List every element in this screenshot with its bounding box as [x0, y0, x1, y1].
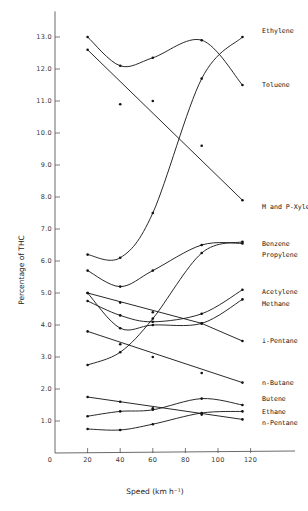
data-point	[86, 292, 89, 295]
series-ethylene	[86, 36, 243, 261]
data-point	[152, 324, 155, 327]
data-point	[152, 57, 155, 60]
x-tick-label: 80	[181, 456, 190, 464]
data-point	[86, 396, 89, 399]
x-axis: 020406080100120	[48, 448, 295, 464]
data-point	[200, 244, 203, 247]
data-point	[241, 298, 244, 301]
x-tick-label: 120	[244, 456, 257, 464]
data-point	[86, 364, 89, 367]
chart: 1.02.03.04.05.06.07.08.09.010.011.012.01…	[0, 0, 308, 511]
data-point	[86, 300, 89, 303]
data-point	[200, 397, 203, 400]
data-point	[152, 356, 155, 359]
data-point	[119, 327, 122, 330]
series-label: Acetylene	[262, 288, 298, 296]
x-tick-label: 40	[116, 456, 125, 464]
data-point	[86, 253, 89, 256]
y-axis: 1.02.03.04.05.06.07.08.09.010.011.012.01…	[36, 11, 60, 453]
series-toluene	[86, 36, 243, 87]
data-point	[86, 415, 89, 418]
data-point	[119, 314, 122, 317]
data-point	[152, 100, 155, 103]
data-point	[119, 65, 122, 68]
y-tick-label: 13.0	[36, 33, 52, 41]
series-n-butane	[86, 330, 243, 384]
x-axis-line	[55, 451, 295, 453]
y-tick-label: 9.0	[41, 161, 52, 169]
series-acetylene	[86, 289, 243, 324]
series-label: n-Butane	[262, 379, 294, 387]
data-point	[241, 404, 244, 407]
y-axis-title: Percentage of THC	[17, 235, 26, 305]
series-label: Ethane	[262, 408, 286, 416]
data-point	[119, 301, 122, 304]
data-point	[152, 407, 155, 410]
data-point	[119, 285, 122, 288]
data-point	[86, 49, 89, 52]
data-point	[119, 429, 122, 432]
data-point	[241, 84, 244, 87]
data-point	[152, 423, 155, 426]
series-label: Toluene	[262, 81, 290, 89]
data-point	[152, 212, 155, 215]
data-point	[119, 351, 122, 354]
x-tick-label: 0	[48, 456, 52, 464]
x-tick-label: 60	[148, 456, 157, 464]
data-point	[200, 145, 203, 148]
data-point	[119, 410, 122, 413]
data-point	[241, 289, 244, 292]
y-tick-label: 1.0	[41, 417, 52, 425]
series-label: i-Pentane	[262, 337, 298, 345]
data-point	[241, 381, 244, 384]
series-label: Benzene	[262, 240, 290, 248]
data-point	[119, 257, 122, 260]
y-tick-label: 2.0	[41, 385, 52, 393]
data-point	[152, 311, 155, 314]
series-m-and-p-xylene	[86, 49, 243, 202]
x-tick-label: 20	[83, 456, 92, 464]
data-point	[200, 77, 203, 80]
y-tick-label: 8.0	[41, 193, 52, 201]
data-point	[241, 199, 244, 202]
series-n-pentane	[86, 396, 243, 421]
series-propylene	[86, 241, 243, 367]
data-point	[119, 103, 122, 106]
series-label: M and P-Xylene	[262, 203, 308, 211]
data-point	[152, 317, 155, 320]
series-labels: EthyleneTolueneM and P-XyleneBenzeneProp…	[262, 27, 308, 427]
x-tick-label: 100	[211, 456, 224, 464]
data-point	[200, 39, 203, 42]
data-point	[86, 330, 89, 333]
data-point	[119, 343, 122, 346]
data-point	[200, 252, 203, 255]
data-point	[241, 410, 244, 413]
series-label: n-Pentane	[262, 419, 298, 427]
y-tick-label: 6.0	[41, 257, 52, 265]
y-tick-label: 4.0	[41, 321, 52, 329]
series-ethane	[86, 410, 243, 431]
series-label: Propylene	[262, 251, 298, 259]
data-point	[241, 340, 244, 343]
series-label: Methane	[262, 300, 290, 308]
y-tick-label: 10.0	[36, 129, 52, 137]
plot-series	[86, 36, 243, 432]
y-tick-label: 5.0	[41, 289, 52, 297]
data-point	[86, 36, 89, 39]
series-label: Butene	[262, 395, 286, 403]
y-tick-label: 12.0	[36, 65, 52, 73]
data-point	[200, 413, 203, 416]
data-point	[119, 401, 122, 404]
y-tick-label: 3.0	[41, 353, 52, 361]
data-point	[200, 313, 203, 316]
data-point	[152, 321, 155, 324]
data-point	[86, 269, 89, 272]
data-point	[86, 428, 89, 431]
series-methane	[86, 292, 243, 330]
series-i-pentane	[86, 292, 243, 343]
data-point	[241, 36, 244, 39]
series-label: Ethylene	[262, 27, 294, 35]
y-tick-label: 11.0	[36, 97, 52, 105]
series-benzene	[86, 242, 243, 288]
y-tick-label: 7.0	[41, 225, 52, 233]
